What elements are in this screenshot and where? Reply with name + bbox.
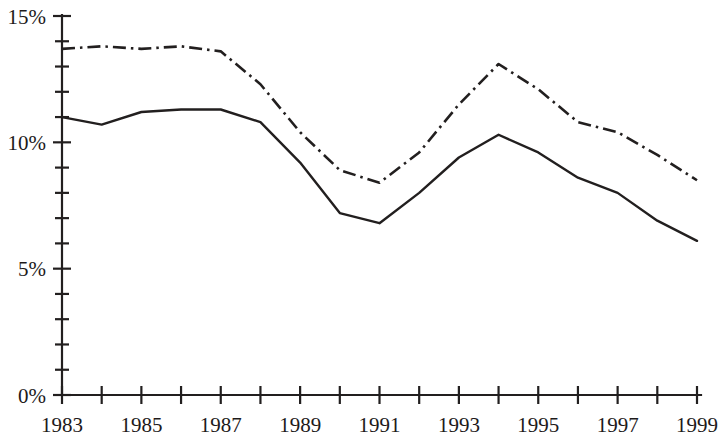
x-tick-label: 1983 <box>41 413 83 437</box>
x-axis-tick-labels: 198319851987198919911993199519971999 <box>41 413 718 437</box>
x-tick-label: 1999 <box>676 413 718 437</box>
x-tick-label: 1987 <box>200 413 242 437</box>
line-chart: 0%5%10%15% 19831985198719891991199319951… <box>0 0 722 446</box>
y-axis-tick-labels: 0%5%10%15% <box>8 5 47 408</box>
series-dash-dot-line <box>62 46 697 182</box>
y-tick-label: 0% <box>18 384 46 408</box>
x-tick-label: 1995 <box>517 413 559 437</box>
y-tick-label: 5% <box>18 257 46 281</box>
x-tick-label: 1997 <box>597 413 639 437</box>
x-tick-label: 1991 <box>359 413 401 437</box>
x-tick-label: 1989 <box>279 413 321 437</box>
x-tick-label: 1993 <box>438 413 480 437</box>
y-tick-label: 10% <box>8 131 47 155</box>
y-tick-label: 15% <box>8 5 47 29</box>
chart-canvas: 0%5%10%15% 19831985198719891991199319951… <box>0 0 722 446</box>
series-solid-line <box>62 109 697 240</box>
x-tick-label: 1985 <box>120 413 162 437</box>
plot-series-group <box>62 46 697 241</box>
x-axis-group: 198319851987198919911993199519971999 <box>41 386 718 437</box>
y-axis-group: 0%5%10%15% <box>8 5 72 408</box>
